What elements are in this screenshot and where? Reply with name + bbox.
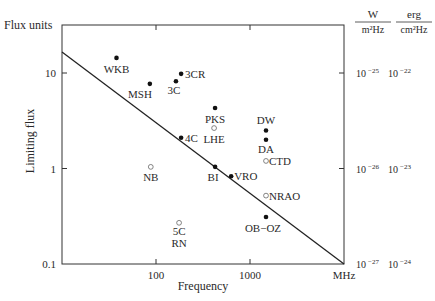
source-dot-open [264,159,269,164]
y-tick-label: 0.1 [42,258,56,270]
source-dot-open [264,193,269,198]
y-axis-title: Limiting flux [23,109,37,173]
source-label: 4C [185,132,198,144]
source-label: OB−OZ [245,222,281,234]
right-tick-label: 10−23 [388,163,411,175]
y-tick-label: 10 [45,67,57,79]
x-tick-label: MHz [333,269,356,281]
right-unit-denominator: cm²Hz [401,24,428,35]
trend-line [62,52,344,264]
source-label: NB [143,171,158,183]
source-label: DA [258,143,274,155]
right-tick-label: 10−25 [356,67,379,79]
source-dot-filled [229,174,234,179]
source-label: MSH [128,88,152,100]
right-tick-label: 10−22 [388,67,411,79]
source-label: BI [208,171,219,183]
source-dot-filled [264,137,269,142]
source-dot-filled [213,165,218,170]
source-label: PKS [205,113,225,125]
source-label: LHE [203,133,225,145]
right-axis-units: Wm²Hzergcm²Hz10−2510−2210−2610−2310−2710… [355,8,432,270]
source-label: 3CR [185,68,206,80]
x-axis-title: Frequency [178,279,229,293]
source-label: WKB [104,63,130,75]
source-label: NRAO [269,190,300,202]
source-label: CTD [269,155,291,167]
y-tick-label: 1 [51,163,57,175]
limit-line [62,52,344,264]
source-dot-filled [174,79,179,84]
source-dot-filled [179,135,184,140]
right-unit-numerator: W [368,8,379,20]
source-dot-open [212,126,217,131]
axis-ticks: 1001000MHz1010.1 [42,25,355,281]
data-points: WKBMSH3C3CRPKS4CDWDABIVROOB−OZLHECTDNBNR… [104,56,301,249]
y-units-label: Flux units [4,18,53,32]
source-label: VRO [234,170,257,182]
source-dot-filled [213,106,218,111]
source-label: 3C [168,84,181,96]
source-dot-filled [264,128,269,133]
right-tick-label: 10−27 [356,258,379,270]
chart: Flux units Limiting flux Frequency 10010… [0,0,435,301]
right-tick-label: 10−26 [356,163,379,175]
source-dot-filled [179,72,184,77]
source-dot-open [148,164,153,169]
source-dot-filled [148,82,153,87]
x-tick-label: 100 [148,269,165,281]
right-unit-numerator: erg [407,8,421,20]
source-label: 5C [173,225,186,237]
source-label: RN [171,237,186,249]
source-label: DW [257,114,276,126]
right-tick-label: 10−24 [388,258,411,270]
x-tick-label: 1000 [239,269,262,281]
source-dot-filled [264,215,269,220]
right-unit-denominator: m²Hz [362,24,385,35]
source-dot-filled [114,56,119,61]
